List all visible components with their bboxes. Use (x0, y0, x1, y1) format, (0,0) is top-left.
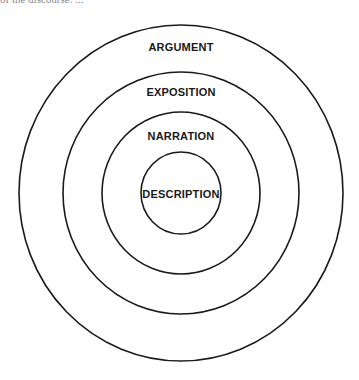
diagram-canvas: of the discourse: ... ARGUMENT EXPOSITIO… (0, 0, 359, 380)
concentric-circles-diagram: ARGUMENT EXPOSITION NARRATION DESCRIPTIO… (0, 0, 359, 380)
label-narration: NARRATION (148, 130, 215, 142)
label-argument: ARGUMENT (148, 41, 213, 53)
label-exposition: EXPOSITION (146, 86, 215, 98)
label-description: DESCRIPTION (142, 188, 219, 200)
